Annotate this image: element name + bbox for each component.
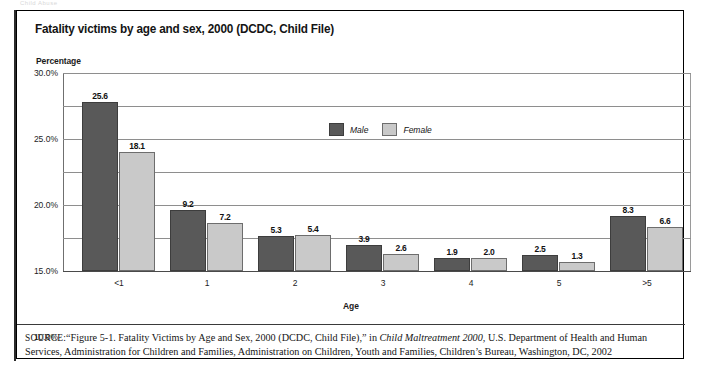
bar-value-label: 1.9 — [446, 247, 457, 257]
legend-swatch-female — [382, 123, 397, 136]
bar-male[interactable]: 1.9 — [434, 258, 470, 271]
bar-value-label: 2.6 — [395, 243, 406, 253]
source-note-part1: “Figure 5-1. Fatality Victims by Age and… — [66, 332, 380, 343]
bar-group: 25.618.1<1 — [82, 73, 156, 271]
bar-group: 2.51.35 — [522, 73, 596, 271]
bar-value-label: 5.4 — [307, 224, 318, 234]
x-tick-label: <1 — [114, 278, 124, 288]
y-tick-label: 30.0% — [34, 68, 58, 78]
bar-female[interactable]: 7.2 — [207, 223, 243, 271]
bar-male[interactable]: 5.3 — [258, 236, 294, 271]
bar-group: 3.92.63 — [346, 73, 420, 271]
legend-label-female: Female — [403, 125, 431, 135]
bar-group: 9.27.21 — [170, 73, 244, 271]
source-divider — [17, 324, 685, 325]
chart-legend: MaleFemale — [329, 123, 432, 136]
bar-male[interactable]: 3.9 — [346, 245, 382, 271]
bar-value-label: 2.5 — [534, 244, 545, 254]
bar-male[interactable]: 9.2 — [170, 210, 206, 271]
bar-group: 5.35.42 — [258, 73, 332, 271]
bar-female[interactable]: 18.1 — [119, 152, 155, 271]
page-top-artifact: Child Abuse — [20, 0, 58, 6]
x-tick-label: 5 — [557, 278, 562, 288]
bar-female[interactable]: 2.6 — [383, 254, 419, 271]
x-tick-label: 1 — [205, 278, 210, 288]
bar-female[interactable]: 1.3 — [559, 262, 595, 271]
legend-item-female[interactable]: Female — [382, 123, 431, 136]
bar-group: 1.92.04 — [434, 73, 508, 271]
bar-value-label: 6.6 — [659, 216, 670, 226]
bars-layer: 25.618.1<19.27.215.35.423.92.631.92.042.… — [64, 73, 690, 271]
x-tick-label: 4 — [469, 278, 474, 288]
bar-value-label: 7.2 — [219, 212, 230, 222]
x-axis-title: Age — [17, 301, 685, 311]
x-tick-label: 3 — [381, 278, 386, 288]
x-tick-label: >5 — [642, 278, 652, 288]
y-axis-title: Percentage — [36, 56, 81, 66]
legend-item-male[interactable]: Male — [329, 123, 368, 136]
y-tick-label: 15.0% — [34, 266, 58, 276]
bar-male[interactable]: 2.5 — [522, 255, 558, 272]
source-note-label: SOURCE: — [25, 333, 66, 343]
bar-value-label: 3.9 — [358, 234, 369, 244]
bar-value-label: 25.6 — [92, 91, 108, 101]
bar-male[interactable]: 8.3 — [610, 216, 646, 271]
gridline: 0.0% — [63, 271, 691, 272]
y-tick-label: 25.0% — [34, 134, 58, 144]
bar-value-label: 18.1 — [129, 141, 145, 151]
bar-group: 8.36.6>5 — [610, 73, 684, 271]
bar-female[interactable]: 5.4 — [295, 235, 331, 271]
source-note-italic-title: Child Maltreatment 2000, — [380, 332, 486, 343]
bar-value-label: 2.0 — [483, 247, 494, 257]
bar-value-label: 5.3 — [270, 225, 281, 235]
plot-area: 30.0%25.0%20.0%15.0%10.0%5.0%0.0% 25.618… — [63, 73, 691, 271]
bar-value-label: 9.2 — [182, 199, 193, 209]
bar-female[interactable]: 2.0 — [471, 258, 507, 271]
chart-title: Fatality victims by age and sex, 2000 (D… — [35, 22, 334, 36]
bar-value-label: 8.3 — [622, 205, 633, 215]
source-note: SOURCE:“Figure 5-1. Fatality Victims by … — [25, 331, 677, 359]
figure-frame: Fatality victims by age and sex, 2000 (D… — [16, 10, 684, 359]
bar-male[interactable]: 25.6 — [82, 102, 118, 271]
y-tick-label: 20.0% — [34, 200, 58, 210]
x-tick-label: 2 — [293, 278, 298, 288]
legend-swatch-male — [329, 123, 344, 136]
bar-female[interactable]: 6.6 — [647, 227, 683, 271]
bar-value-label: 1.3 — [571, 251, 582, 261]
legend-label-male: Male — [350, 125, 368, 135]
